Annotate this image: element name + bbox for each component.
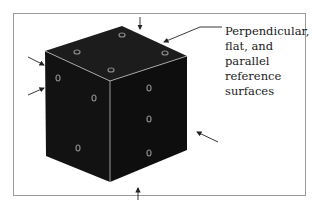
arrow-icon	[197, 132, 218, 142]
callout-line: parallel	[225, 54, 309, 69]
callout-line: Perpendicular,	[225, 24, 309, 39]
callout-line: flat, and	[225, 39, 309, 54]
callout-label: Perpendicular, flat, and parallel refere…	[225, 24, 309, 99]
arrow-icon	[28, 88, 44, 95]
cube	[45, 26, 187, 182]
arrow-icon	[28, 57, 44, 65]
callout-line: surfaces	[225, 84, 309, 99]
callout-line: reference	[225, 69, 309, 84]
callout-leader-icon	[164, 27, 222, 42]
